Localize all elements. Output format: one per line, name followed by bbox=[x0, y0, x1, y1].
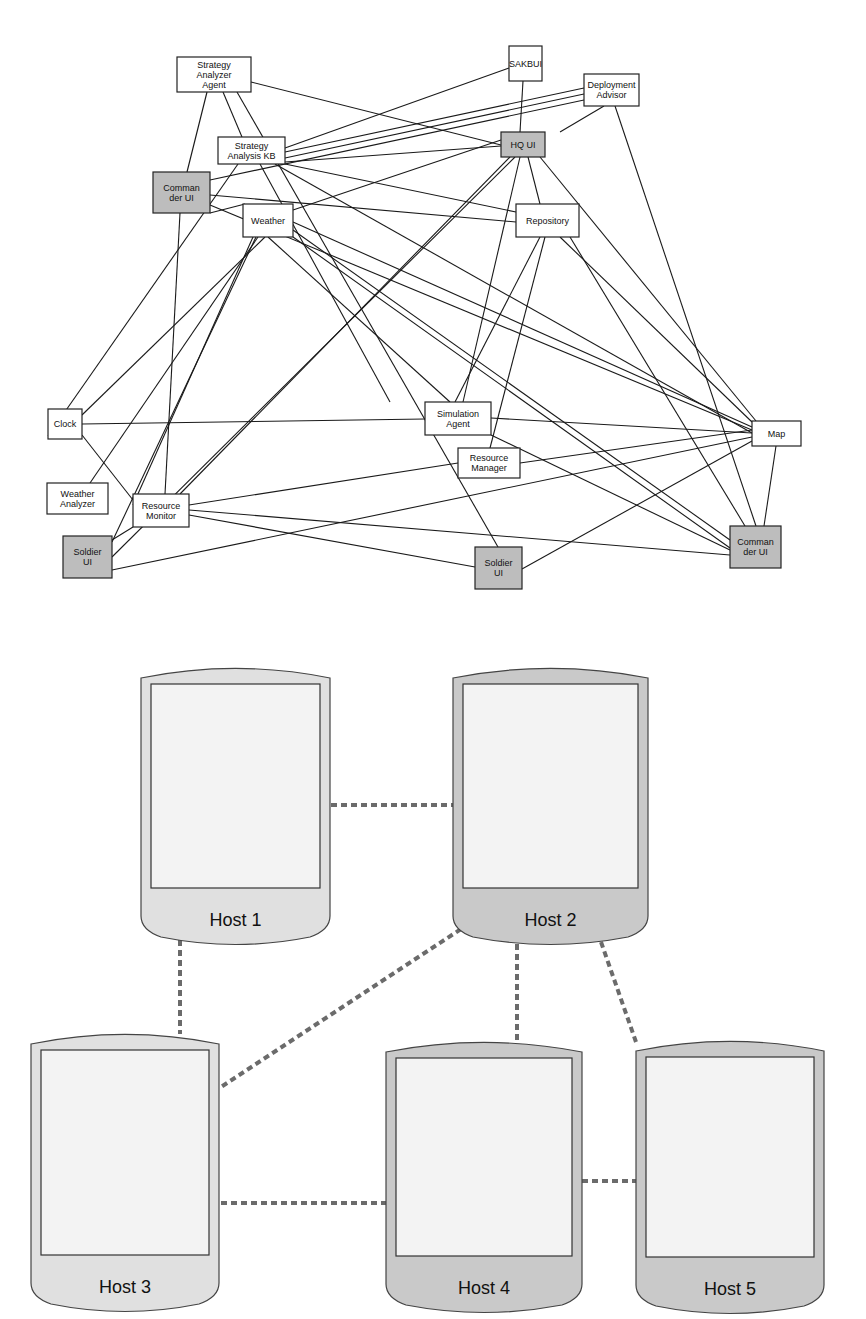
node-sakbui[interactable]: SAKBUI bbox=[509, 46, 542, 81]
graph-edge bbox=[528, 157, 540, 204]
graph-edge bbox=[560, 237, 752, 422]
host-label: Host 4 bbox=[458, 1278, 510, 1298]
node-label: Manager bbox=[471, 463, 507, 473]
graph-edge bbox=[133, 237, 253, 505]
node-label: Agent bbox=[202, 80, 226, 90]
graph-edge bbox=[490, 237, 545, 448]
node-resmon[interactable]: ResourceMonitor bbox=[133, 494, 189, 527]
host-h1[interactable]: Host 1 bbox=[141, 668, 330, 944]
node-label: Monitor bbox=[146, 511, 176, 521]
node-label: Strategy bbox=[235, 141, 269, 151]
node-label: Soldier bbox=[484, 558, 512, 568]
host-label: Host 5 bbox=[704, 1279, 756, 1299]
node-label: Map bbox=[768, 429, 786, 439]
node-cmdui_l[interactable]: Commander UI bbox=[153, 172, 210, 213]
host-h3[interactable]: Host 3 bbox=[31, 1034, 219, 1311]
graph-edge bbox=[560, 106, 604, 132]
graph-edge bbox=[520, 81, 523, 132]
node-label: Analysis KB bbox=[227, 151, 275, 161]
graph-edge bbox=[293, 140, 501, 210]
node-label: Resource bbox=[142, 501, 181, 511]
node-label: Soldier bbox=[73, 547, 101, 557]
graph-edge bbox=[764, 446, 776, 526]
node-repo[interactable]: Repository bbox=[516, 204, 579, 237]
node-sim[interactable]: SimulationAgent bbox=[425, 402, 491, 435]
node-label: Advisor bbox=[596, 90, 626, 100]
node-label: Weather bbox=[251, 216, 285, 226]
node-label: HQ UI bbox=[510, 140, 535, 150]
host-screen-panel bbox=[396, 1058, 572, 1256]
host-screen-panel bbox=[463, 684, 638, 888]
node-label: UI bbox=[83, 557, 92, 567]
node-weather[interactable]: Weather bbox=[243, 204, 293, 237]
node-label: der UI bbox=[743, 547, 768, 557]
host-screen-panel bbox=[646, 1057, 814, 1257]
graph-edge bbox=[491, 435, 730, 550]
host-deployment-diagram: Host 1Host 2Host 3Host 4Host 5 bbox=[31, 668, 824, 1313]
node-soldier_l[interactable]: SoldierUI bbox=[63, 536, 112, 578]
host-label: Host 2 bbox=[524, 910, 576, 930]
host-screen-panel bbox=[41, 1050, 209, 1255]
host-h4[interactable]: Host 4 bbox=[386, 1042, 582, 1312]
node-label: Simulation bbox=[437, 409, 479, 419]
node-saa[interactable]: StrategyAnalyzerAgent bbox=[177, 57, 251, 92]
node-cmdui_r[interactable]: Commander UI bbox=[730, 526, 781, 568]
node-label: Comman bbox=[163, 183, 200, 193]
graph-edge bbox=[189, 515, 475, 567]
node-label: Clock bbox=[54, 419, 77, 429]
graph-edge bbox=[90, 237, 258, 483]
node-hqui[interactable]: HQ UI bbox=[501, 132, 545, 157]
graph-edge bbox=[189, 510, 730, 555]
graph-edge bbox=[491, 418, 752, 433]
graph-edge bbox=[520, 430, 752, 463]
host-label: Host 3 bbox=[99, 1277, 151, 1297]
agent-nodes: StrategyAnalyzerAgentSAKBUIDeploymentAdv… bbox=[47, 46, 801, 589]
graph-edge bbox=[223, 92, 242, 137]
node-label: Resource bbox=[470, 453, 509, 463]
node-label: SAKBUI bbox=[509, 59, 542, 69]
graph-edge bbox=[268, 237, 450, 402]
graph-edge bbox=[615, 106, 756, 526]
host-nodes: Host 1Host 2Host 3Host 4Host 5 bbox=[31, 668, 824, 1313]
node-sakb[interactable]: StrategyAnalysis KB bbox=[218, 137, 285, 164]
graph-edge bbox=[275, 164, 752, 433]
node-resmgr[interactable]: ResourceManager bbox=[458, 448, 520, 478]
host-h5[interactable]: Host 5 bbox=[636, 1041, 824, 1313]
node-soldier_c[interactable]: SoldierUI bbox=[475, 547, 522, 589]
graph-edge bbox=[165, 213, 180, 494]
graph-edge bbox=[455, 237, 540, 402]
node-label: Strategy bbox=[197, 60, 231, 70]
graph-edge bbox=[187, 92, 207, 172]
graph-edge bbox=[112, 437, 752, 570]
node-label: der UI bbox=[169, 193, 194, 203]
graph-edge bbox=[540, 157, 756, 421]
node-label: Analyzer bbox=[196, 70, 231, 80]
graph-edge bbox=[112, 527, 133, 540]
node-label: UI bbox=[494, 568, 503, 578]
graph-edge bbox=[293, 230, 730, 540]
node-label: Weather bbox=[61, 489, 95, 499]
graph-edge bbox=[522, 441, 752, 569]
host-label: Host 1 bbox=[209, 910, 261, 930]
host-h2[interactable]: Host 2 bbox=[453, 668, 648, 944]
graph-edge bbox=[285, 146, 501, 162]
node-label: Comman bbox=[737, 537, 774, 547]
node-label: Repository bbox=[526, 216, 570, 226]
graph-edge bbox=[82, 237, 265, 415]
node-map[interactable]: Map bbox=[752, 421, 801, 446]
host-screen-panel bbox=[151, 684, 320, 888]
graph-edge bbox=[210, 204, 245, 213]
node-label: Analyzer bbox=[60, 499, 95, 509]
node-wanalyzer[interactable]: WeatherAnalyzer bbox=[47, 483, 108, 514]
node-label: Agent bbox=[446, 419, 470, 429]
graph-edge bbox=[189, 463, 458, 505]
node-clock[interactable]: Clock bbox=[48, 409, 82, 439]
figure-canvas: StrategyAnalyzerAgentSAKBUIDeploymentAdv… bbox=[0, 0, 866, 1319]
node-deploy[interactable]: DeploymentAdvisor bbox=[584, 74, 639, 106]
agent-network-diagram: StrategyAnalyzerAgentSAKBUIDeploymentAdv… bbox=[47, 46, 801, 589]
graph-edge bbox=[570, 237, 745, 526]
graph-edge bbox=[285, 68, 509, 148]
node-label: Deployment bbox=[587, 80, 636, 90]
host-link-dashed bbox=[601, 942, 636, 1042]
